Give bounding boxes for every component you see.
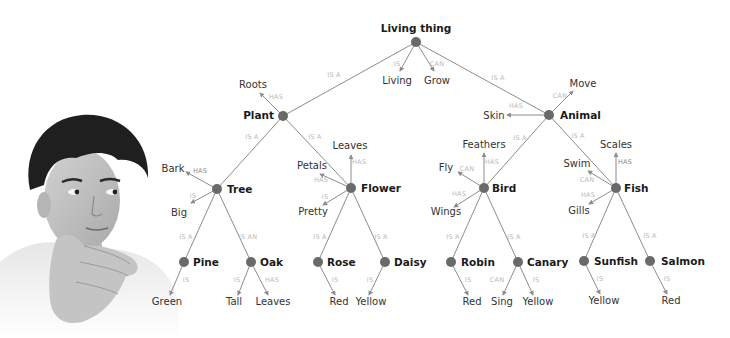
is-a-edge bbox=[484, 188, 518, 262]
relation-label: IS A bbox=[491, 74, 505, 82]
relation-label: IS bbox=[367, 276, 373, 284]
relation-label: IS A bbox=[308, 133, 322, 141]
is-a-edge bbox=[451, 188, 484, 262]
attribute-label: Feathers bbox=[462, 139, 505, 150]
relation-label: IS bbox=[394, 60, 400, 68]
relation-label: HAS bbox=[314, 176, 328, 184]
concept-node-dot bbox=[212, 184, 222, 194]
concept-node-daisy: Daisy bbox=[394, 256, 427, 268]
relation-label: CAN bbox=[553, 92, 567, 100]
attribute-label: Leaves bbox=[256, 296, 291, 307]
relation-label: HAS bbox=[618, 158, 632, 166]
concept-node-robin: Robin bbox=[461, 256, 495, 268]
attribute-label: Gills bbox=[568, 205, 589, 216]
attribute-label: Sing bbox=[491, 296, 513, 307]
relation-label: HAS bbox=[269, 93, 283, 101]
attribute-label: Big bbox=[171, 207, 187, 218]
relation-label: HAS bbox=[193, 167, 207, 175]
relation-label: IS A bbox=[582, 232, 596, 240]
relation-label: CAN bbox=[430, 60, 444, 68]
relation-label: CAN bbox=[490, 276, 504, 284]
relation-label: IS bbox=[332, 276, 338, 284]
relation-label: HAS bbox=[509, 102, 523, 110]
attribute-label: Yellow bbox=[588, 295, 620, 306]
concept-node-oak: Oak bbox=[260, 256, 284, 268]
concept-node-dot bbox=[544, 110, 554, 120]
attribute-label: Swim bbox=[563, 158, 590, 169]
concept-node-dot bbox=[278, 111, 288, 121]
relation-label: IS bbox=[597, 275, 603, 283]
relation-label: IS bbox=[322, 193, 328, 201]
concept-node-dot bbox=[380, 257, 390, 267]
concept-node-dot bbox=[313, 257, 323, 267]
concept-node-dot bbox=[645, 256, 655, 266]
relation-label: IS A bbox=[507, 233, 521, 241]
relation-label: IS A bbox=[313, 233, 327, 241]
concept-node-flower: Flower bbox=[361, 182, 402, 194]
relation-label: IS bbox=[234, 276, 240, 284]
attribute-label: Tall bbox=[225, 296, 242, 307]
is-a-edge bbox=[351, 188, 385, 262]
concept-node-sunfish: Sunfish bbox=[594, 255, 638, 267]
attribute-label: Yellow bbox=[355, 296, 387, 307]
relation-label: IS bbox=[465, 276, 471, 284]
is-a-edge bbox=[217, 116, 283, 189]
relation-label: CAN bbox=[580, 176, 594, 184]
attribute-label: Leaves bbox=[333, 140, 368, 151]
concept-node-rose: Rose bbox=[327, 256, 356, 268]
concept-node-dot bbox=[246, 257, 256, 267]
attribute-label: Scales bbox=[600, 139, 632, 150]
relation-label: CAN bbox=[460, 165, 474, 173]
concept-node-tree: Tree bbox=[227, 183, 252, 195]
attribute-label: Petals bbox=[297, 160, 327, 171]
concept-node-dot bbox=[411, 37, 421, 47]
is-a-edge bbox=[217, 189, 251, 262]
relation-label: IS A bbox=[571, 132, 585, 140]
attribute-label: Roots bbox=[239, 79, 267, 90]
attribute-label: Wings bbox=[431, 206, 461, 217]
relation-label: IS A bbox=[327, 71, 341, 79]
attribute-label: Move bbox=[570, 78, 597, 89]
relation-label: IS A bbox=[179, 233, 193, 241]
relation-label: HAS bbox=[452, 190, 466, 198]
attribute-label: Grow bbox=[424, 75, 450, 86]
relation-label: IS A bbox=[446, 233, 460, 241]
attribute-label: Bark bbox=[162, 163, 185, 174]
relation-label: IS A bbox=[513, 134, 527, 142]
concept-node-pine: Pine bbox=[193, 256, 219, 268]
relation-label: HAS bbox=[265, 276, 279, 284]
relation-label: IS A bbox=[643, 232, 657, 240]
attribute-label: Skin bbox=[483, 110, 504, 121]
relation-label: IS A bbox=[245, 133, 259, 141]
relation-label: IS AN bbox=[239, 233, 257, 241]
attribute-label: Pretty bbox=[298, 206, 328, 217]
semantic-network-figure: IS AIS AIS AIS AIS AIS AIS AIS ANIS AIS … bbox=[0, 0, 730, 338]
concept-node-dot bbox=[513, 257, 523, 267]
relation-label: IS A bbox=[374, 233, 388, 241]
attribute-label: Yellow bbox=[522, 296, 554, 307]
is-a-edge bbox=[616, 188, 650, 261]
attribute-label: Fly bbox=[439, 162, 454, 173]
attribute-label: Living bbox=[382, 75, 412, 86]
concept-node-bird: Bird bbox=[492, 182, 516, 194]
concept-node-plant: Plant bbox=[243, 109, 274, 121]
hierarchy-edges: IS AIS AIS AIS AIS AIS AIS AIS ANIS AIS … bbox=[179, 42, 657, 262]
relation-label: HAS bbox=[581, 191, 595, 199]
concept-node-dot bbox=[346, 183, 356, 193]
concept-node-living_thing: Living thing bbox=[381, 22, 451, 34]
concept-node-dot bbox=[446, 257, 456, 267]
attribute-label: Red bbox=[330, 296, 349, 307]
relation-label: IS bbox=[533, 276, 539, 284]
semantic-network-diagram: IS AIS AIS AIS AIS AIS AIS AIS ANIS AIS … bbox=[0, 0, 730, 338]
attribute-label: Red bbox=[662, 295, 681, 306]
concept-node-dot bbox=[611, 183, 621, 193]
concept-node-animal: Animal bbox=[560, 109, 601, 121]
attribute-arrow bbox=[503, 262, 518, 295]
concept-node-dot bbox=[179, 257, 189, 267]
attribute-label: Red bbox=[463, 296, 482, 307]
relation-label: IS bbox=[190, 192, 196, 200]
concept-node-fish: Fish bbox=[624, 182, 649, 194]
relation-label: HAS bbox=[485, 158, 499, 166]
relation-label: IS bbox=[664, 275, 670, 283]
relation-label: HAS bbox=[352, 158, 366, 166]
